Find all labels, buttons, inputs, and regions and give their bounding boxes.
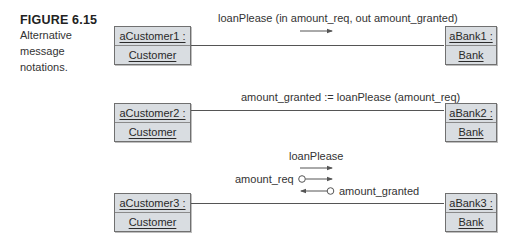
param-in-label: amount_req (235, 173, 294, 185)
arrow-right-icon (300, 28, 334, 36)
object-acustomer2[interactable]: aCustomer2 : Customer (114, 103, 191, 142)
instance-name: aBank2 : (449, 107, 492, 119)
caption-line-2: message (20, 44, 115, 59)
association-link-3 (191, 203, 444, 204)
instance-name: aCustomer3 : (119, 197, 185, 209)
instance-name: aBank3 : (449, 197, 492, 209)
association-link-1 (191, 45, 444, 46)
instance-name: aCustomer2 : (119, 107, 185, 119)
class-name: Customer (129, 216, 177, 228)
figure-caption: FIGURE 6.15 Alternative message notation… (20, 13, 115, 75)
figure-number: FIGURE 6.15 (20, 13, 115, 27)
data-token-out-icon (300, 187, 336, 197)
caption-line-1: Alternative (20, 28, 115, 43)
message-label-3: loanPlease (289, 150, 343, 162)
instance-name: aBank1 : (449, 30, 492, 42)
class-name: Customer (129, 126, 177, 138)
object-abank1[interactable]: aBank1 : Bank (445, 26, 497, 65)
association-link-2 (191, 110, 444, 111)
class-name: Bank (458, 216, 483, 228)
object-abank3[interactable]: aBank3 : Bank (445, 193, 497, 232)
caption-line-3: notations. (20, 60, 115, 75)
class-name: Bank (458, 126, 483, 138)
message-label-2: amount_granted := loanPlease (amount_req… (241, 91, 460, 103)
instance-name: aCustomer1 : (119, 30, 185, 42)
message-label-1: loanPlease (in amount_req, out amount_gr… (218, 12, 458, 24)
object-abank2[interactable]: aBank2 : Bank (445, 103, 497, 142)
object-acustomer3[interactable]: aCustomer3 : Customer (114, 193, 191, 232)
arrow-right-icon (300, 165, 334, 173)
class-name: Bank (458, 49, 483, 61)
class-name: Customer (129, 49, 177, 61)
data-token-in-icon (298, 175, 334, 185)
param-out-label: amount_granted (339, 185, 419, 197)
object-acustomer1[interactable]: aCustomer1 : Customer (114, 26, 191, 65)
